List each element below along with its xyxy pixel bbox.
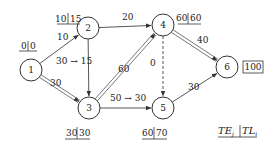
edge-duration: 60 <box>118 64 130 74</box>
node-2-times: 10 15 <box>55 13 82 24</box>
node-5-times: 60 70 <box>142 127 168 139</box>
edge-line <box>88 39 89 96</box>
node-label: 2 <box>85 23 91 33</box>
node-6: 6 <box>216 56 238 78</box>
edge-duration: 30 → 15 <box>56 56 92 66</box>
edge-line <box>99 25 151 27</box>
edge-4-5: 0 <box>150 36 163 96</box>
node-4: 4 <box>152 14 174 36</box>
node-label: 5 <box>160 103 166 113</box>
node-label: 3 <box>86 103 92 113</box>
node-1: 1 <box>20 59 42 81</box>
legend: TEj TLi <box>218 125 257 138</box>
edge-2-4: 20 <box>99 12 151 28</box>
legend-tl: TLi <box>242 125 257 137</box>
node-3: 3 <box>78 97 100 119</box>
edge-3-4: 60 <box>95 33 156 101</box>
node-2-tl: 15 <box>70 14 82 24</box>
node-1-times: 0 0 <box>19 41 37 51</box>
legend-te: TEj <box>218 125 234 138</box>
node-4-times: 60 60 <box>176 13 202 24</box>
edge-duration: 0 <box>150 58 156 68</box>
node-6-final-time: 100 <box>243 61 263 73</box>
edge-duration: 10 <box>57 32 69 42</box>
node-label: 4 <box>160 20 166 30</box>
edge-1-3: 30 <box>39 75 79 103</box>
edge-duration: 50 → 30 <box>110 93 146 103</box>
edge-4-6: 40 <box>171 30 217 62</box>
node-4-te: 60 <box>176 13 188 23</box>
node-1-tl: 0 <box>30 41 36 51</box>
node-3-tl: 30 <box>79 128 91 138</box>
arrow-head <box>154 34 155 35</box>
edge-duration: 30 <box>188 82 200 92</box>
edge-duration: 20 <box>122 12 134 22</box>
node-3-te: 30 <box>66 128 78 138</box>
node-1-te: 0 <box>21 41 27 51</box>
node-5-tl: 70 <box>156 128 168 138</box>
edge-duration: 30 <box>50 78 62 88</box>
node-6-final: 100 <box>244 62 261 72</box>
edge-3-5: 50 → 30 <box>100 93 151 108</box>
node-label: 6 <box>224 62 230 72</box>
critical-line <box>173 30 218 59</box>
critical-line <box>171 32 216 61</box>
arrow-head <box>215 59 217 60</box>
edge-5-6: 30 <box>172 73 217 102</box>
node-5: 5 <box>152 97 174 119</box>
edge-duration: 40 <box>197 35 209 45</box>
node-3-times: 30 30 <box>65 127 91 139</box>
node-5-te: 60 <box>142 128 154 138</box>
network-diagram: 103030 → 15206050 → 3004030 123456 0 0 1… <box>0 0 280 145</box>
arrow-head <box>77 100 79 101</box>
node-4-tl: 60 <box>190 13 202 23</box>
node-label: 1 <box>28 65 34 75</box>
node-2-te: 10 <box>55 14 67 24</box>
